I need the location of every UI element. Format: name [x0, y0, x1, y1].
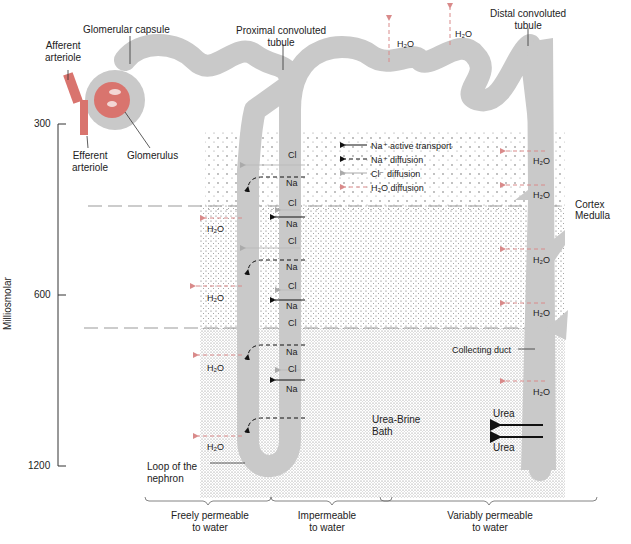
h2o-label: H₂O [533, 307, 550, 319]
h2o-label: H₂O [207, 223, 224, 235]
collecting-duct-label: Collecting duct [452, 344, 511, 356]
ion-label: Cl [288, 150, 297, 160]
ion-label: Na [286, 347, 298, 357]
nephron-diagram: Glomerular capsule Afferentarteriole Eff… [0, 0, 631, 544]
h2o-label: H₂O [207, 441, 224, 453]
legend-cl-diffusion: Cl⁻ diffusion [371, 168, 420, 180]
ion-label: Cl [288, 364, 297, 374]
diagram-graphics [0, 0, 631, 544]
axis-title: Milliosmolar [2, 277, 13, 330]
medulla-label: Medulla [575, 210, 610, 222]
ion-label: Na [286, 384, 298, 394]
urea-label-1: Urea [493, 408, 515, 420]
legend-na-diffusion: Na⁺ diffusion [371, 154, 423, 166]
ion-label: Na [286, 219, 298, 229]
h2o-label: H₂O [207, 362, 224, 374]
axis-tick-1200: 1200 [28, 460, 50, 472]
permeability-variably: Variably permeableto water [430, 510, 550, 534]
ion-label: Cl [288, 236, 297, 246]
loop-label: Loop of thenephron [147, 461, 197, 485]
legend-na-active: Na⁺ active transport [371, 140, 452, 152]
legend-h2o-diffusion: H₂O diffusion [371, 182, 424, 194]
glomerular-capsule-label: Glomerular capsule [83, 24, 170, 36]
axis-tick-600: 600 [34, 289, 51, 301]
distal-tubule-label: Distal convolutedtubule [490, 8, 566, 32]
ion-label: Cl [288, 281, 297, 291]
ion-label: Cl [288, 318, 297, 328]
axis-tick-300: 300 [34, 118, 51, 130]
efferent-arteriole-label: Efferentarteriole [72, 150, 108, 174]
permeability-freely: Freely permeableto water [163, 510, 257, 534]
ion-label: Na [286, 301, 298, 311]
permeability-impermeable: Impermeableto water [280, 510, 374, 534]
proximal-tubule-label: Proximal convolutedtubule [236, 25, 326, 49]
h2o-label: H₂O [533, 189, 550, 201]
glomerulus-label: Glomerulus [127, 150, 178, 162]
urea-label-2: Urea [493, 442, 515, 454]
h2o-label: H₂O [533, 254, 550, 266]
h2o-label: H₂O [207, 292, 224, 304]
afferent-arteriole-label: Afferentarteriole [45, 40, 81, 64]
h2o-label: H₂O [533, 386, 550, 398]
ion-label: Cl [288, 198, 297, 208]
h2o-label: H₂O [455, 28, 472, 40]
ion-label: Na [286, 178, 298, 188]
ion-label: Na [286, 262, 298, 272]
h2o-label: H₂O [397, 38, 414, 50]
h2o-label: H₂O [533, 155, 550, 167]
bath-label: Urea-BrineBath [372, 414, 420, 438]
